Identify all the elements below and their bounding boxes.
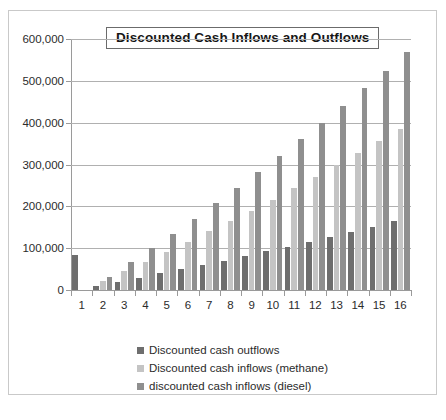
y-axis-tick [66, 39, 71, 40]
x-axis-tick [284, 291, 285, 296]
x-axis-label: 5 [163, 299, 169, 311]
bar [255, 172, 261, 290]
legend-label: discounted cash inflows (diesel) [149, 380, 311, 392]
bar-group [220, 39, 241, 290]
x-axis-tick [199, 291, 200, 296]
bar [206, 231, 212, 290]
bar [136, 278, 142, 290]
x-axis-tick [156, 291, 157, 296]
bar-group [177, 39, 198, 290]
bar-group [369, 39, 390, 290]
legend-swatch-icon [137, 347, 144, 354]
bar [383, 71, 389, 290]
bar-group [284, 39, 305, 290]
x-axis-label: 14 [351, 299, 364, 311]
legend-swatch-icon [137, 383, 144, 390]
bar-group [347, 39, 368, 290]
y-axis-tick [66, 165, 71, 166]
y-axis-tick [66, 248, 71, 249]
x-axis-tick [135, 291, 136, 296]
bar-group [326, 39, 347, 290]
bar [391, 221, 397, 290]
bar-group [135, 39, 156, 290]
bar [221, 261, 227, 290]
bar [242, 256, 248, 290]
bar [355, 153, 361, 290]
bar [270, 200, 276, 290]
bar [149, 248, 155, 290]
bar [340, 106, 346, 290]
legend-item: discounted cash inflows (diesel) [137, 378, 328, 394]
y-axis-tick [66, 206, 71, 207]
y-axis-labels: 0100,000200,000300,000400,000500,000600,… [9, 39, 64, 290]
bar [234, 188, 240, 290]
legend-item: Discounted cash inflows (methane) [137, 360, 328, 376]
x-axis-label: 1 [78, 299, 84, 311]
bar [121, 271, 127, 290]
x-axis-tick [114, 291, 115, 296]
x-axis-label: 11 [288, 299, 300, 311]
y-axis-label: 200,000 [12, 200, 64, 212]
y-axis-label: 0 [12, 284, 64, 296]
bar [143, 262, 149, 290]
x-axis-label: 10 [266, 299, 279, 311]
bar [313, 177, 319, 290]
y-axis-label: 300,000 [12, 159, 64, 171]
x-axis-label: 2 [100, 299, 106, 311]
bar [128, 262, 134, 290]
x-axis-tick [262, 291, 263, 296]
x-axis-tick [411, 291, 412, 296]
y-axis-tick [66, 123, 71, 124]
bar-group [114, 39, 135, 290]
bar-group [199, 39, 220, 290]
y-axis-tick [66, 81, 71, 82]
x-axis-tick [220, 291, 221, 296]
x-axis-tick [241, 291, 242, 296]
bar [306, 242, 312, 290]
x-axis-tick [369, 291, 370, 296]
bar [178, 269, 184, 290]
bar [192, 219, 198, 290]
chart-legend: Discounted cash outflowsDiscounted cash … [137, 342, 328, 396]
bar [100, 281, 106, 290]
x-axis-tick [177, 291, 178, 296]
bar-group [262, 39, 283, 290]
x-axis-label: 8 [227, 299, 233, 311]
bar [362, 88, 368, 290]
bar [249, 211, 255, 290]
x-axis-label: 15 [373, 299, 386, 311]
bar [327, 237, 333, 290]
bar-group [241, 39, 262, 290]
x-axis-label: 16 [394, 299, 407, 311]
bar [185, 242, 191, 290]
x-axis-tick [71, 291, 72, 296]
x-axis-tick [390, 291, 391, 296]
bar [72, 255, 78, 290]
x-axis-label: 4 [142, 299, 148, 311]
bar-group [156, 39, 177, 290]
legend-swatch-icon [137, 365, 144, 372]
chart-frame: Discounted Cash Inflows and Outflows 010… [8, 10, 437, 395]
bar [291, 188, 297, 290]
bar [376, 141, 382, 290]
bar [348, 232, 354, 290]
bar [277, 156, 283, 290]
bar [213, 203, 219, 290]
x-axis-tick [347, 291, 348, 296]
bar [370, 227, 376, 290]
x-axis-label: 6 [185, 299, 191, 311]
y-axis-label: 400,000 [12, 117, 64, 129]
bar [228, 221, 234, 290]
bar [115, 282, 121, 290]
x-axis-tick [92, 291, 93, 296]
bar [319, 123, 325, 290]
bar-group [71, 39, 92, 290]
x-axis-label: 7 [206, 299, 212, 311]
x-axis-label: 12 [309, 299, 322, 311]
y-axis-label: 500,000 [12, 75, 64, 87]
x-axis-label: 3 [121, 299, 127, 311]
bar-group [92, 39, 113, 290]
y-axis-label: 600,000 [12, 33, 64, 45]
y-axis-label: 100,000 [12, 242, 64, 254]
x-axis-tick [326, 291, 327, 296]
